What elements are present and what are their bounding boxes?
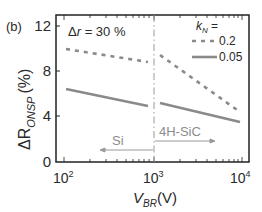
region-label-si: Si [112,133,124,148]
x-axis-label: VBR(V) [133,189,177,209]
si-arrow [100,148,153,152]
svg-text:103: 103 [143,169,164,186]
svg-text:0: 0 [43,153,51,170]
y-axis-label: ΔRONSP(%) [16,69,37,150]
legend-label-0.2: 0.2 [219,34,236,48]
svg-text:104: 104 [230,169,251,186]
y-tick-labels: 0 4 8 12 [34,17,51,170]
sic-arrow [155,139,215,143]
panel-label: (b) [6,19,22,34]
x-tick-labels: 102 103 104 [53,169,251,186]
region-label-sic: 4H-SiC [159,124,201,139]
svg-text:102: 102 [53,169,74,186]
chart: Si 4H-SiC Δr = 30 % kN = 0.2 0.05 (b) 0 … [0,0,262,212]
series-sic-kn-0.05 [160,103,240,122]
series-si-kn-0.05 [66,89,148,106]
legend: kN = 0.2 0.05 [192,19,243,64]
svg-text:4: 4 [43,107,51,124]
svg-text:8: 8 [43,62,51,79]
svg-text:12: 12 [34,17,51,34]
delta-r-annotation: Δr = 30 % [68,24,126,39]
legend-title: kN = [196,19,218,35]
series-si-kn-0.2 [66,49,148,62]
legend-label-0.05: 0.05 [219,50,243,64]
